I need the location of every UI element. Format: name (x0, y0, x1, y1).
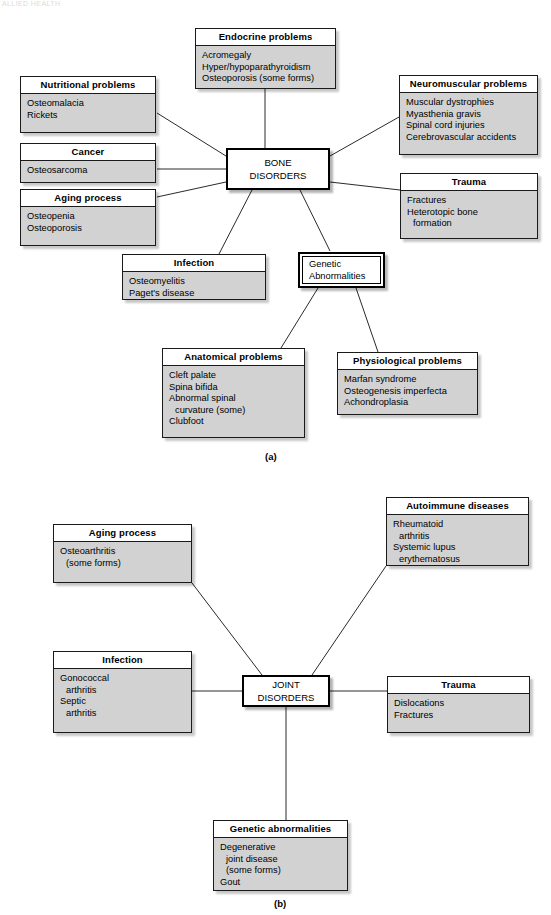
box-title: Anatomical problems (163, 349, 304, 366)
list-item: Heterotopic bone (407, 207, 532, 219)
panel-label-b: (b) (274, 898, 286, 909)
box-items: Gonococcal arthritis Septic arthritis (54, 669, 191, 723)
list-item: Systemic lupus (393, 542, 523, 554)
box-title: Endocrine problems (196, 29, 335, 46)
box-title: Trauma (401, 174, 537, 191)
list-item: erythematosus (393, 554, 523, 566)
list-item: arthritis (60, 708, 186, 720)
box-infection-bone[interactable]: Infection Osteomyelitis Paget's disease (122, 254, 266, 300)
list-item: Rheumatoid (393, 519, 523, 531)
box-aging-process-joint[interactable]: Aging process Osteoarthritis (some forms… (53, 524, 192, 583)
list-item: Fractures (407, 195, 532, 207)
list-item: Abnormal spinal (169, 393, 299, 405)
hub-line-1: JOINT (272, 678, 300, 691)
box-title: Trauma (388, 677, 529, 694)
list-item: Spinal cord injuries (406, 120, 532, 132)
box-trauma-bone[interactable]: Trauma Fractures Heterotopic bone format… (400, 173, 538, 239)
box-items: Acromegaly Hyper/hypoparathyroidism Oste… (196, 46, 335, 89)
hub-joint-disorders[interactable]: JOINT DISORDERS (242, 675, 330, 707)
box-endocrine-problems[interactable]: Endocrine problems Acromegaly Hyper/hypo… (195, 28, 336, 89)
box-items: Degenerative joint disease (some forms) … (214, 838, 347, 892)
box-title: Neuromuscular problems (400, 76, 537, 93)
box-items: Cleft palate Spina bifida Abnormal spina… (163, 366, 304, 432)
list-item: Myasthenia gravis (406, 109, 532, 121)
node-line-2: Abnormalities (309, 270, 365, 282)
box-autoimmune-diseases[interactable]: Autoimmune diseases Rheumatoid arthritis… (386, 497, 529, 566)
list-item: Hyper/hypoparathyroidism (202, 62, 330, 74)
box-items: Osteopenia Osteoporosis (21, 207, 155, 238)
box-items: Osteomalacia Rickets (21, 94, 155, 125)
list-item: Osteomyelitis (129, 276, 260, 288)
list-item: Gout (220, 877, 342, 889)
list-item: Cerebrovascular accidents (406, 132, 532, 144)
list-item: arthritis (60, 685, 186, 697)
list-item: Osteomalacia (27, 98, 150, 110)
list-item: Rickets (27, 110, 150, 122)
list-item: arthritis (393, 531, 523, 543)
hub-line-2: DISORDERS (257, 691, 314, 704)
node-line-1: Genetic (309, 258, 341, 270)
box-items: Dislocations Fractures (388, 694, 529, 725)
box-physiological-problems[interactable]: Physiological problems Marfan syndrome O… (337, 352, 478, 415)
box-items: Fractures Heterotopic bone formation (401, 191, 537, 234)
figure-page: ALLIED HEALTH Endocrine problems (0, 0, 551, 915)
box-items: Marfan syndrome Osteogenesis imperfecta … (338, 370, 477, 413)
list-item: (some forms) (60, 558, 186, 570)
list-item: Muscular dystrophies (406, 97, 532, 109)
list-item: Osteosarcoma (27, 165, 150, 177)
box-title: Physiological problems (338, 353, 477, 370)
box-cancer[interactable]: Cancer Osteosarcoma (20, 143, 156, 183)
panel-label-a: (a) (265, 451, 277, 462)
list-item: formation (407, 218, 532, 230)
box-neuromuscular-problems[interactable]: Neuromuscular problems Muscular dystroph… (399, 75, 538, 155)
list-item: Osteoporosis (27, 223, 150, 235)
list-item: Clubfoot (169, 416, 299, 428)
list-item: (some forms) (220, 865, 342, 877)
box-title: Infection (123, 255, 265, 272)
box-title: Infection (54, 652, 191, 669)
list-item: Osteogenesis imperfecta (344, 386, 472, 398)
hub-bone-disorders[interactable]: BONE DISORDERS (226, 148, 330, 190)
box-infection-joint[interactable]: Infection Gonococcal arthritis Septic ar… (53, 651, 192, 733)
list-item: Spina bifida (169, 382, 299, 394)
list-item: Osteoporosis (some forms) (202, 73, 330, 85)
box-title: Aging process (54, 525, 191, 542)
box-anatomical-problems[interactable]: Anatomical problems Cleft palate Spina b… (162, 348, 305, 438)
hub-line-2: DISORDERS (249, 169, 306, 182)
box-title: Cancer (21, 144, 155, 161)
list-item: curvature (some) (169, 405, 299, 417)
node-genetic-abnormalities[interactable]: Genetic Abnormalities (298, 252, 385, 288)
box-genetic-abnormalities-joint[interactable]: Genetic abnormalities Degenerative joint… (213, 820, 348, 891)
list-item: Acromegaly (202, 50, 330, 62)
box-title: Nutritional problems (21, 77, 155, 94)
box-aging-process-bone[interactable]: Aging process Osteopenia Osteoporosis (20, 189, 156, 246)
box-items: Osteomyelitis Paget's disease (123, 272, 265, 303)
list-item: Gonococcal (60, 673, 186, 685)
list-item: Marfan syndrome (344, 374, 472, 386)
list-item: Achondroplasia (344, 397, 472, 409)
box-items: Osteoarthritis (some forms) (54, 542, 191, 573)
box-nutritional-problems[interactable]: Nutritional problems Osteomalacia Ricket… (20, 76, 156, 133)
list-item: Paget's disease (129, 288, 260, 300)
watermark-text: ALLIED HEALTH (2, 0, 60, 7)
box-trauma-joint[interactable]: Trauma Dislocations Fractures (387, 676, 530, 733)
box-title: Genetic abnormalities (214, 821, 347, 838)
box-items: Osteosarcoma (21, 161, 155, 181)
hub-line-1: BONE (264, 156, 291, 169)
list-item: joint disease (220, 854, 342, 866)
list-item: Septic (60, 696, 186, 708)
box-title: Aging process (21, 190, 155, 207)
list-item: Osteoarthritis (60, 546, 186, 558)
box-items: Rheumatoid arthritis Systemic lupus eryt… (387, 515, 528, 569)
box-title: Autoimmune diseases (387, 498, 528, 515)
list-item: Osteopenia (27, 211, 150, 223)
node-inner: Genetic Abnormalities (302, 256, 381, 284)
list-item: Dislocations (394, 698, 524, 710)
list-item: Cleft palate (169, 370, 299, 382)
list-item: Degenerative (220, 842, 342, 854)
box-items: Muscular dystrophies Myasthenia gravis S… (400, 93, 537, 147)
list-item: Fractures (394, 710, 524, 722)
